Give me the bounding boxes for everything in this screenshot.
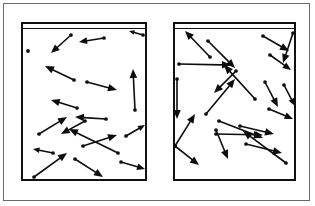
vector-tail-dot bbox=[173, 144, 177, 148]
vector-shaft bbox=[246, 144, 273, 151]
vector-shaft bbox=[175, 146, 192, 159]
vector-shaft bbox=[39, 150, 53, 153]
vector-tail-dot bbox=[75, 106, 79, 110]
vector-tail-dot bbox=[268, 53, 272, 57]
vector-tail-dot bbox=[83, 119, 87, 123]
vector-shaft bbox=[216, 134, 254, 135]
vector-shaft bbox=[75, 159, 95, 172]
vector-shaft bbox=[269, 109, 285, 116]
vector-tail-dot bbox=[206, 39, 210, 43]
vector-tail-dot bbox=[141, 33, 145, 37]
vector-tail-dot bbox=[104, 117, 108, 121]
vector-tail-dot bbox=[85, 80, 89, 84]
vector-tail-dot bbox=[284, 161, 288, 165]
vector-tail-dot bbox=[244, 142, 248, 146]
left-container-vectors bbox=[21, 22, 147, 181]
vector-arrowhead bbox=[75, 114, 84, 122]
vector-shaft bbox=[121, 162, 137, 167]
vector-arrowhead bbox=[79, 37, 88, 44]
vector-tail-dot bbox=[217, 119, 221, 123]
vector-shaft bbox=[84, 118, 106, 119]
vector-arrowhead bbox=[187, 114, 195, 124]
vector-shaft bbox=[284, 85, 291, 99]
vector-tail-dot bbox=[214, 128, 218, 132]
vector-shaft bbox=[53, 70, 74, 80]
vector-tail-dot bbox=[81, 144, 85, 148]
vector-tail-dot bbox=[238, 124, 242, 128]
vector-tail-dot bbox=[37, 132, 41, 136]
vector-arrowhead bbox=[57, 153, 67, 161]
vector-tail-dot bbox=[72, 78, 76, 82]
vector-arrowhead bbox=[33, 148, 40, 153]
vector-tail-dot bbox=[51, 151, 55, 155]
vector-shaft bbox=[208, 41, 229, 62]
vector-arrowhead bbox=[136, 164, 145, 170]
vector-shaft bbox=[286, 33, 293, 54]
vector-arrowhead bbox=[284, 113, 293, 119]
vector-shaft bbox=[83, 138, 108, 146]
vector-arrowhead bbox=[282, 53, 289, 63]
vector-arrowhead bbox=[272, 147, 282, 154]
vector-arrowhead bbox=[107, 84, 117, 91]
vector-tail-dot bbox=[253, 97, 257, 101]
vector-tail-dot bbox=[69, 33, 73, 37]
vector-arrowhead bbox=[57, 117, 67, 125]
vector-tail-dot bbox=[26, 49, 30, 53]
vector-tail-dot bbox=[261, 34, 265, 38]
vector-shaft bbox=[34, 158, 60, 177]
vector-shaft bbox=[57, 35, 71, 47]
vector-tail-dot bbox=[73, 157, 77, 161]
vector-shaft bbox=[175, 122, 190, 146]
right-container-panel bbox=[173, 22, 296, 181]
vector-tail-dot bbox=[175, 77, 179, 81]
vector-shaft bbox=[87, 38, 104, 41]
vector-tail-dot bbox=[291, 31, 295, 35]
figure-root bbox=[0, 0, 315, 206]
vector-shaft bbox=[270, 55, 284, 65]
vector-arrowhead bbox=[221, 149, 228, 159]
vector-shaft bbox=[39, 122, 59, 134]
vector-tail-dot bbox=[282, 83, 286, 87]
vector-arrowhead bbox=[173, 110, 181, 119]
vector-tail-dot bbox=[263, 80, 267, 84]
vector-shaft bbox=[126, 129, 139, 136]
vector-arrowhead bbox=[282, 62, 291, 70]
vector-shaft bbox=[179, 64, 222, 65]
vector-shaft bbox=[133, 78, 135, 110]
vector-arrowhead bbox=[93, 169, 103, 177]
vector-tail-dot bbox=[133, 108, 137, 112]
vector-arrowhead bbox=[130, 69, 138, 78]
vector-arrowhead bbox=[264, 128, 274, 135]
vector-tail-dot bbox=[32, 175, 36, 179]
vector-tail-dot bbox=[267, 107, 271, 111]
vector-tail-dot bbox=[214, 132, 218, 136]
vector-tail-dot bbox=[208, 55, 212, 59]
left-container-panel bbox=[21, 22, 147, 181]
vector-arrowhead bbox=[51, 99, 60, 106]
vector-tail-dot bbox=[204, 112, 208, 116]
vector-tail-dot bbox=[119, 160, 123, 164]
vector-tail-dot bbox=[124, 134, 128, 138]
vector-shaft bbox=[69, 121, 85, 130]
right-container-vectors bbox=[173, 22, 296, 181]
vector-arrowhead bbox=[129, 30, 135, 34]
vector-tail-dot bbox=[234, 69, 238, 73]
vector-tail-dot bbox=[102, 36, 106, 40]
vector-shaft bbox=[263, 36, 281, 47]
figure-outer-frame bbox=[3, 3, 310, 201]
vector-tail-dot bbox=[116, 151, 120, 155]
vector-arrowhead bbox=[107, 134, 117, 141]
vector-shaft bbox=[265, 82, 274, 99]
vector-shaft bbox=[59, 103, 77, 108]
vector-shaft bbox=[230, 72, 255, 99]
vector-shaft bbox=[87, 82, 108, 88]
vector-tail-dot bbox=[177, 62, 181, 66]
